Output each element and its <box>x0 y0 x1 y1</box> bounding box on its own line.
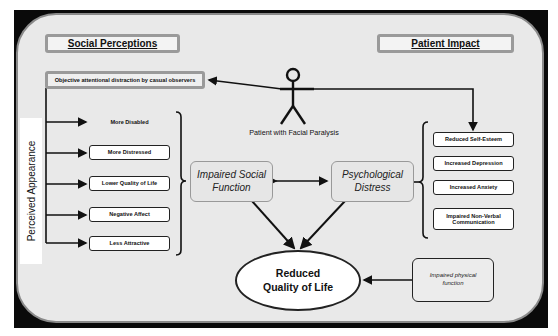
perception-more-disabled: More Disabled <box>89 115 170 129</box>
perceived-appearance-label: Perceived Appearance <box>20 118 42 264</box>
perception-less-attractive: Less Attractive <box>89 236 170 251</box>
impact-increased-anxiety: Increased Anxiety <box>433 180 514 195</box>
perception-negative-affect: Negative Affect <box>89 207 170 222</box>
psychological-distress-box: Psychological Distress <box>331 161 414 202</box>
reduced-quality-of-life-ellipse: Reduced Quality of Life <box>235 250 361 311</box>
impact-increased-depression: Increased Depression <box>433 156 514 171</box>
perception-lower-quality-of-life: Lower Quality of Life <box>89 176 170 191</box>
outcome-line-1: Reduced <box>276 267 320 281</box>
impact-reduced-self-esteem: Reduced Self-Esteem <box>433 132 514 147</box>
observer-distraction-box: Objective attentional distraction by cas… <box>45 71 205 89</box>
perception-more-distressed: More Distressed <box>89 145 170 160</box>
impact-impaired-nonverbal-communication: Impaired Non-Verbal Communication <box>433 208 514 230</box>
impaired-physical-function-box: Impaired physical function <box>412 258 494 302</box>
impaired-social-function-box: Impaired Social Function <box>190 161 273 202</box>
header-patient-impact: Patient Impact <box>377 34 514 53</box>
patient-caption: Patient with Facial Paralysis <box>238 126 350 138</box>
outcome-line-2: Quality of Life <box>263 281 333 295</box>
patient-figure-icon <box>280 69 314 124</box>
header-social-perceptions: Social Perceptions <box>45 34 180 53</box>
